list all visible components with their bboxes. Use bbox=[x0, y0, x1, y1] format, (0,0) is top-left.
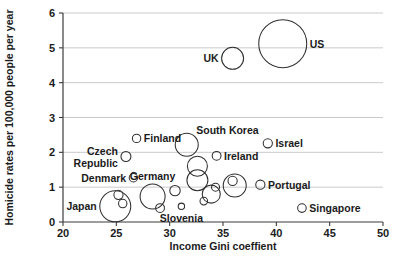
label-south-korea: South Korea bbox=[196, 124, 259, 136]
bubble-finland[interactable] bbox=[132, 134, 140, 142]
label-czech-republic: CzechRepublic bbox=[74, 145, 118, 169]
bubble-unlabeled-6[interactable] bbox=[228, 176, 237, 185]
x-tick-label-20: 20 bbox=[57, 227, 69, 239]
bubble-singapore[interactable] bbox=[298, 204, 307, 213]
bubble-israel[interactable] bbox=[263, 139, 272, 148]
label-singapore: Singapore bbox=[309, 202, 361, 214]
bubble-unlabeled-1[interactable] bbox=[187, 156, 207, 176]
x-axis-title: Income Gini coeffient bbox=[170, 240, 277, 252]
label-finland: Finland bbox=[144, 132, 181, 144]
y-tick-labels: 0123456 bbox=[49, 7, 56, 228]
bubble-chart-figure: 20253035404550 0123456 USUKSouth KoreaFi… bbox=[0, 0, 402, 258]
label-us: US bbox=[310, 38, 325, 50]
x-tick-label-35: 35 bbox=[217, 227, 229, 239]
x-tick-labels: 20253035404550 bbox=[57, 227, 389, 239]
y-tick-label-5: 5 bbox=[49, 42, 55, 54]
bubble-us[interactable] bbox=[259, 20, 307, 68]
bubble-unlabeled-10[interactable] bbox=[119, 199, 127, 207]
label-portugal: Portugal bbox=[268, 179, 311, 191]
y-axis-title: Homicide rates per 100,000 people per ye… bbox=[3, 10, 15, 226]
bubble-czech-republic[interactable] bbox=[121, 152, 131, 162]
y-tick-label-2: 2 bbox=[49, 146, 55, 158]
y-tick-label-3: 3 bbox=[49, 112, 55, 124]
bubble-germany[interactable] bbox=[140, 184, 165, 209]
data-bubbles bbox=[100, 20, 307, 222]
chart-canvas: 20253035404550 0123456 USUKSouth KoreaFi… bbox=[0, 0, 402, 258]
label-ireland: Ireland bbox=[224, 150, 258, 162]
x-tick-label-30: 30 bbox=[164, 227, 176, 239]
y-tick-label-6: 6 bbox=[49, 7, 55, 19]
y-tick-label-0: 0 bbox=[49, 216, 55, 228]
y-tick-label-4: 4 bbox=[49, 77, 56, 89]
label-japan: Japan bbox=[66, 200, 96, 212]
label-denmark: Denmark bbox=[81, 172, 126, 184]
label-uk: UK bbox=[203, 52, 219, 64]
axis-ticks bbox=[59, 13, 383, 226]
label-israel: Israel bbox=[275, 137, 303, 149]
bubble-portugal[interactable] bbox=[256, 180, 265, 189]
bubble-uk[interactable] bbox=[222, 47, 244, 69]
bubble-ireland[interactable] bbox=[212, 151, 221, 160]
x-tick-label-25: 25 bbox=[110, 227, 122, 239]
bubble-slovenia[interactable] bbox=[178, 203, 184, 209]
x-tick-label-40: 40 bbox=[270, 227, 282, 239]
label-slovenia: Slovenia bbox=[160, 212, 203, 224]
y-tick-label-1: 1 bbox=[49, 181, 55, 193]
label-germany: Germany bbox=[130, 170, 176, 182]
x-tick-label-50: 50 bbox=[377, 227, 389, 239]
data-point-labels: USUKSouth KoreaFinlandIsraelCzechRepubli… bbox=[66, 38, 360, 224]
x-tick-label-45: 45 bbox=[324, 227, 336, 239]
